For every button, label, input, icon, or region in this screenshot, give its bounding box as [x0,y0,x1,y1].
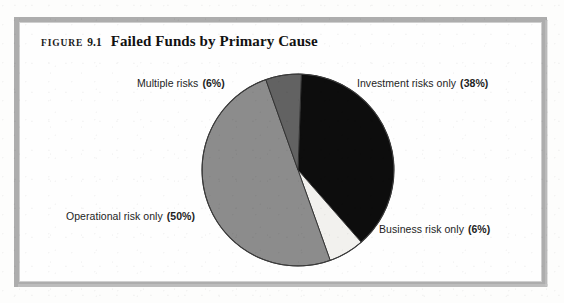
pie-label-business-risk-text: Business risk only [379,223,464,235]
pie-label-investment-risks-percent: (38%) [460,77,488,89]
pie-label-multiple-risks-text: Multiple risks [137,77,198,89]
pie-label-operational-risk: Operational risk only(50%) [66,210,195,222]
pie-chart-svg [0,0,564,303]
pie-chart [0,0,564,303]
pie-slice-group [202,74,394,266]
pie-label-operational-risk-percent: (50%) [167,210,195,222]
pie-label-business-risk: Business risk only(6%) [379,223,490,235]
pie-label-business-risk-percent: (6%) [468,223,490,235]
figure-page: FIGURE 9.1 Failed Funds by Primary Cause… [0,0,564,303]
pie-label-multiple-risks: Multiple risks(6%) [137,77,225,89]
pie-label-multiple-risks-percent: (6%) [202,77,224,89]
pie-label-operational-risk-text: Operational risk only [66,210,163,222]
pie-label-investment-risks-text: Investment risks only [357,77,456,89]
pie-label-investment-risks: Investment risks only(38%) [357,77,488,89]
